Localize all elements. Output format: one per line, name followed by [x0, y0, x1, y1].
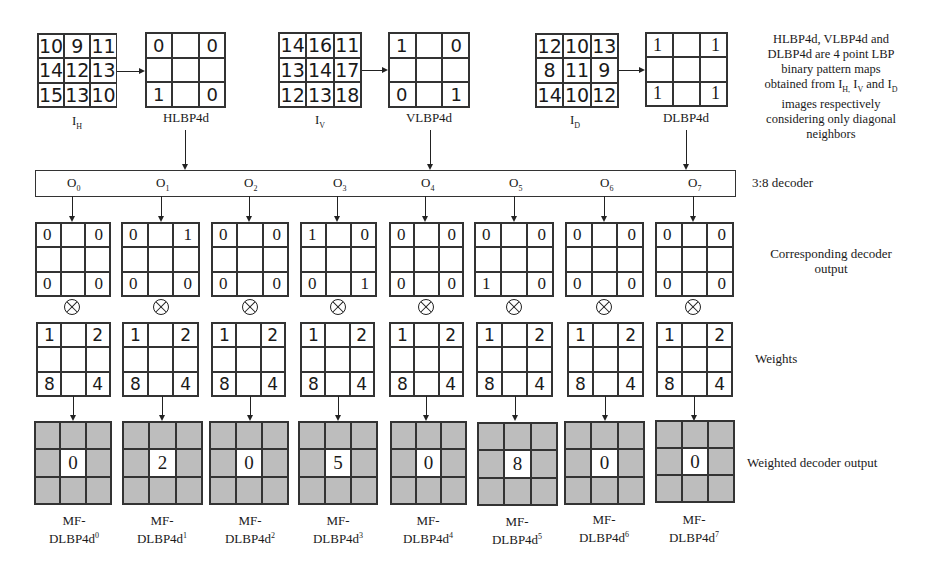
arrow-vlbp-to-decoder [430, 130, 431, 164]
cell [325, 347, 349, 371]
cell [657, 347, 682, 371]
cell [326, 272, 351, 296]
cell: 0 [173, 272, 199, 296]
label-sup: 4 [449, 531, 453, 540]
weighted-output-grid-7: 0 [655, 420, 735, 503]
decoder-label: 3:8 decoder [752, 175, 832, 190]
cell: 0 [527, 223, 553, 247]
arrow-o7 [693, 196, 694, 217]
input-label-ih: IH [57, 113, 97, 134]
cell: 4 [707, 372, 732, 396]
cell: 2 [527, 323, 552, 347]
cell: 1 [442, 82, 469, 107]
weights-grid-0: 12 84 [36, 322, 111, 397]
note-text: and I [863, 77, 891, 91]
cell: 2 [618, 323, 643, 347]
cell [301, 347, 325, 371]
decoder-output-grid-4: 00 00 [389, 222, 464, 297]
cell [591, 477, 617, 504]
cell [682, 247, 708, 271]
cell [707, 347, 732, 371]
cell [236, 347, 260, 371]
cell [592, 272, 618, 296]
decoder-output-grid-2: 00 00 [211, 222, 289, 297]
cell [673, 57, 700, 81]
cell [593, 323, 618, 347]
decoder-output-grid-6: 00 00 [565, 222, 644, 297]
cell [414, 223, 438, 247]
cell [656, 448, 682, 475]
cell [414, 372, 438, 396]
decoder-output-label-3: O3 [333, 175, 346, 193]
cell [86, 477, 111, 504]
cell [262, 477, 288, 504]
o-sub: 7 [697, 184, 701, 193]
cell: 2 [439, 323, 463, 347]
cell: 0 [439, 272, 463, 296]
cell [391, 449, 416, 476]
cell [173, 347, 198, 371]
cell: 1 [301, 323, 325, 347]
cell [148, 323, 173, 347]
center-value: 8 [504, 450, 530, 477]
cell [212, 347, 236, 371]
cell: 8 [212, 372, 236, 396]
cell [618, 477, 644, 504]
label-text: DLBP4d [313, 531, 359, 546]
cell [618, 422, 644, 449]
cell [325, 372, 349, 396]
cell [299, 477, 325, 504]
weighted-output-label: Weighted decoder output [747, 455, 927, 470]
cell: 0 [301, 272, 326, 296]
cell: 1 [389, 33, 416, 58]
cell: 11 [334, 33, 361, 58]
hlbp4d-label: HLBP4d [140, 110, 232, 125]
cell [478, 478, 504, 505]
cell [148, 372, 173, 396]
cell [326, 247, 351, 271]
cell: 0 [122, 272, 148, 296]
cell [391, 477, 416, 504]
cell [86, 347, 110, 371]
cell: 2 [173, 323, 198, 347]
cell [439, 247, 463, 271]
cell: 1 [700, 82, 727, 106]
cell [210, 449, 236, 476]
o-sub: 5 [518, 184, 522, 193]
cell [351, 449, 377, 476]
cell [682, 421, 708, 448]
cell: 0 [566, 272, 592, 296]
cell [656, 421, 682, 448]
cell [86, 449, 111, 476]
cell: 0 [36, 223, 61, 247]
dlbp4d-grid: 1 1 1 1 [645, 32, 728, 107]
cell [262, 449, 288, 476]
o-main: O [688, 175, 697, 190]
label-sup: 5 [538, 532, 542, 541]
cell [85, 247, 110, 271]
cell: 10 [38, 34, 64, 58]
cell [237, 272, 262, 296]
cell [236, 477, 262, 504]
weighted-output-grid-2: 0 [209, 421, 289, 505]
multiply-icon [64, 299, 80, 315]
cell [261, 347, 285, 371]
arrow-o1 [161, 196, 162, 217]
label-sub: D [574, 121, 580, 130]
multiply-icon [418, 299, 434, 315]
cell [199, 58, 225, 83]
cell [149, 477, 175, 504]
o-main: O [156, 175, 165, 190]
decoder-output-grid-1: 01 00 [121, 222, 200, 297]
cell [172, 82, 198, 107]
mf-dlbp4d-3-label: MF- DLBP4d3 [302, 513, 374, 546]
cell: 0 [36, 272, 61, 296]
o-sub: 2 [253, 184, 257, 193]
cell: 0 [389, 82, 416, 107]
note-line: binary pattern maps [740, 62, 922, 77]
cell [442, 58, 469, 83]
cell [656, 475, 682, 502]
cell: 4 [618, 372, 643, 396]
cell: 0 [656, 223, 682, 247]
cell [416, 82, 443, 107]
